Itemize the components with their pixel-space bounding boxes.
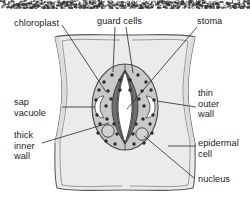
chloroplast-dot: [118, 78, 121, 81]
chloroplast-dot: [102, 80, 105, 83]
chloroplast-dot: [110, 73, 113, 76]
label-stoma: stoma: [197, 16, 222, 27]
chloroplast-dot: [152, 98, 155, 101]
label-sap-vacuole: sap vacuole: [14, 97, 46, 118]
chloroplast-dot: [131, 132, 134, 135]
chloroplast-dot: [148, 122, 151, 125]
chloroplast-dot: [141, 117, 144, 120]
chloroplast-dot: [151, 113, 154, 116]
chloroplast-dot: [104, 104, 107, 107]
chloroplast-dot: [105, 117, 108, 120]
chloroplast-dot: [96, 131, 99, 134]
chloroplast-dot: [106, 89, 109, 92]
chloroplast-dot: [134, 122, 137, 125]
label-thick-inner-wall: thick inner wall: [14, 130, 35, 162]
chloroplast-dot: [97, 88, 100, 91]
chloroplast-dot: [94, 98, 97, 101]
chloroplast-dot: [118, 88, 121, 91]
chloroplast-dot: [128, 88, 131, 91]
chloroplast-dot: [142, 141, 145, 144]
chloroplast-dot: [150, 131, 153, 134]
chloroplast-dot: [132, 142, 135, 145]
label-epidermal-cell: epidermal cell: [198, 138, 239, 159]
guard-cell-pair: [92, 64, 158, 150]
chloroplast-dot: [113, 142, 116, 145]
chloroplast-dot: [142, 104, 145, 107]
label-nucleus: nucleus: [198, 174, 230, 185]
label-thin-outer-wall: thin outer wall: [198, 88, 219, 120]
chloroplast-dot: [95, 113, 98, 116]
chloroplast-dot: [115, 132, 118, 135]
label-chloroplast: chloroplast: [14, 18, 59, 29]
chloroplast-dot: [137, 97, 140, 100]
chloroplast-dot: [144, 80, 147, 83]
chloroplast-dot: [149, 88, 152, 91]
nucleus-left: [102, 125, 114, 137]
stoma-diagram-figure: chloroplast guard cells stoma sap vacuol…: [0, 0, 250, 211]
chloroplast-dot: [136, 73, 139, 76]
chloroplast-dot: [112, 122, 115, 125]
label-guard-cells: guard cells: [97, 16, 142, 27]
chloroplast-dot: [104, 139, 107, 142]
chloroplast-dot: [109, 97, 112, 100]
chloroplast-dot: [128, 78, 131, 81]
